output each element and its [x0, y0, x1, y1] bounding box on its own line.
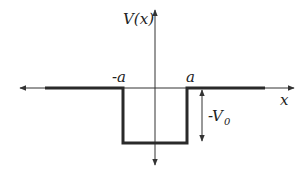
left-edge-label: -a — [112, 68, 126, 86]
x-axis-label: x — [280, 91, 289, 109]
right-edge-label: a — [186, 68, 195, 86]
depth-label: -V — [208, 107, 225, 125]
y-axis-label: V(x) — [123, 10, 154, 28]
square-well-diagram: V(x) x -a a -V 0 — [0, 0, 307, 176]
depth-subscript: 0 — [224, 116, 231, 127]
